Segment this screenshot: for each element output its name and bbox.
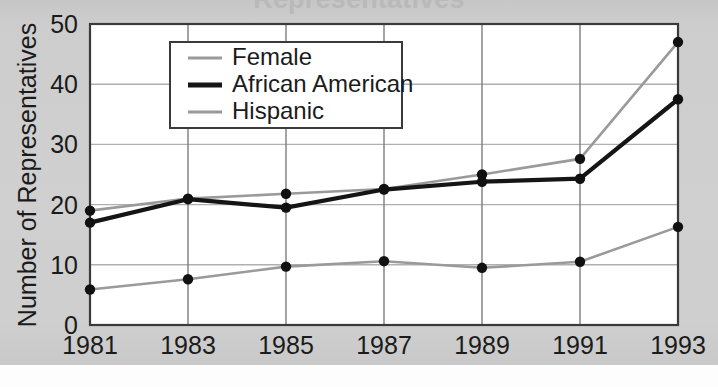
data-point	[575, 257, 585, 267]
data-point	[183, 194, 193, 204]
y-axis-tick-labels: 01020304050	[50, 10, 78, 339]
y-tick-label: 50	[50, 10, 78, 38]
data-point	[477, 177, 487, 187]
data-point	[673, 37, 683, 47]
y-tick-label: 20	[50, 191, 78, 219]
data-point	[379, 184, 389, 194]
x-tick-label: 1981	[62, 331, 118, 359]
data-point	[183, 274, 193, 284]
legend-label: African American	[232, 70, 413, 97]
x-tick-label: 1985	[258, 331, 314, 359]
x-tick-label: 1993	[650, 331, 706, 359]
x-tick-label: 1983	[160, 331, 216, 359]
line-chart: 01020304050 1981198319851987198919911993…	[0, 0, 718, 387]
y-tick-label: 30	[50, 130, 78, 158]
data-point	[477, 263, 487, 273]
y-axis-title: Number of Representatives	[13, 23, 41, 327]
x-axis-tick-labels: 1981198319851987198919911993	[62, 331, 706, 359]
y-tick-label: 10	[50, 251, 78, 279]
data-point	[673, 222, 683, 232]
plot-container: 01020304050 1981198319851987198919911993…	[0, 0, 718, 387]
x-tick-label: 1991	[552, 331, 608, 359]
legend-label: Hispanic	[232, 97, 324, 124]
data-point	[85, 284, 95, 294]
data-point	[673, 94, 683, 104]
data-point	[281, 261, 291, 271]
y-tick-label: 40	[50, 70, 78, 98]
chart-legend: FemaleAfrican AmericanHispanic	[170, 42, 413, 128]
data-point	[379, 256, 389, 266]
data-point	[281, 202, 291, 212]
data-point	[575, 154, 585, 164]
x-tick-label: 1987	[356, 331, 412, 359]
chart-figure: Representatives 01020304050 198119831985…	[0, 0, 718, 387]
data-point	[575, 174, 585, 184]
data-point	[85, 205, 95, 215]
x-tick-label: 1989	[454, 331, 510, 359]
data-point	[85, 217, 95, 227]
legend-label: Female	[232, 43, 312, 70]
data-point	[281, 189, 291, 199]
